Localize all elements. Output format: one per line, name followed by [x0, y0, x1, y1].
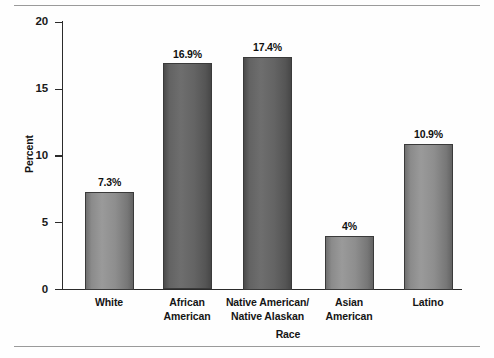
y-axis-line	[62, 21, 63, 290]
chart-page: 20 15 10 5 0 Percent Race 7.3% 16.9% 17.…	[0, 0, 494, 358]
y-tick-label-20: 20	[8, 16, 48, 28]
y-tick-0	[55, 289, 62, 290]
bar-value-asian-american: 4%	[319, 221, 380, 232]
bar-white[interactable]	[85, 192, 134, 290]
bar-asian-american[interactable]	[325, 236, 374, 290]
x-category-label-latino: Latino	[378, 296, 478, 310]
y-axis-title: Percent	[23, 119, 35, 189]
bar-chart-plot: 20 15 10 5 0 Percent Race 7.3% 16.9% 17.…	[0, 0, 494, 358]
bar-african-american[interactable]	[163, 63, 212, 289]
y-tick-15	[55, 89, 62, 90]
bar-value-african-american: 16.9%	[157, 49, 218, 60]
bar-value-white: 7.3%	[79, 177, 140, 188]
y-tick-label-5: 5	[8, 217, 48, 229]
y-tick-label-15: 15	[8, 83, 48, 95]
y-tick-5	[55, 222, 62, 223]
x-category-label-asian-american-line2: American	[299, 310, 399, 324]
bar-value-latino: 10.9%	[398, 129, 459, 140]
y-tick-10	[55, 155, 62, 156]
bar-value-native-american: 17.4%	[237, 42, 298, 53]
y-tick-20	[55, 22, 62, 23]
bar-latino[interactable]	[404, 144, 453, 290]
x-axis-title: Race	[228, 328, 348, 340]
x-category-label-latino-line1: Latino	[378, 296, 478, 310]
y-tick-label-0: 0	[8, 284, 48, 296]
bar-native-american[interactable]	[243, 57, 292, 290]
